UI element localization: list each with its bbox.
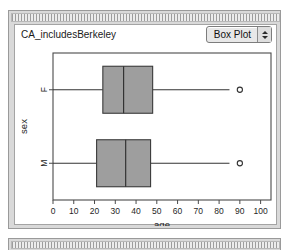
box-F [103,66,153,113]
x-tick-label-20: 20 [90,206,100,216]
plot-window: CA_includesBerkeley Box Plot FMsex010203… [8,10,281,229]
x-tick-label-40: 40 [131,206,141,216]
plot-panel: CA_includesBerkeley Box Plot FMsex010203… [14,24,277,225]
box-plot-svg: FMsex0102030405060708090100age [15,47,278,226]
x-tick-label-50: 50 [152,206,162,216]
box-M [97,140,151,187]
page-title: CA_includesBerkeley [21,29,116,40]
x-tick-label-60: 60 [173,206,183,216]
x-tick-label-100: 100 [254,206,268,216]
outlier-F-0 [237,87,242,92]
plot-type-label: Box Plot [207,27,257,42]
y-tick-label-F: F [39,87,49,92]
x-tick-label-80: 80 [214,206,224,216]
plot-type-stepper[interactable] [257,27,271,42]
chevron-down-icon[interactable] [262,36,268,39]
x-tick-label-30: 30 [111,206,121,216]
window-title-bar[interactable] [11,13,280,22]
background-window[interactable] [8,238,281,250]
y-axis-label: sex [18,119,29,134]
y-tick-label-M: M [39,160,49,167]
x-axis-label: age [154,219,170,226]
x-tick-label-10: 10 [69,206,79,216]
x-tick-label-90: 90 [235,206,245,216]
background-window-title-bar[interactable] [11,241,280,249]
x-tick-label-0: 0 [51,206,56,216]
outlier-M-0 [237,161,242,166]
chevron-up-icon[interactable] [262,31,268,34]
box-plot-chart: FMsex0102030405060708090100age [15,47,278,226]
plot-frame [53,53,271,200]
x-tick-label-70: 70 [194,206,204,216]
panel-header: CA_includesBerkeley Box Plot [15,25,276,48]
plot-type-dropdown[interactable]: Box Plot [206,26,272,43]
